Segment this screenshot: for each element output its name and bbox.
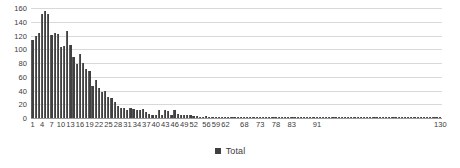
x-axis-tick-68: 68 (240, 120, 249, 129)
x-axis-tick-25: 25 (104, 120, 113, 129)
x-axis-tick-78: 78 (272, 120, 281, 129)
x-axis-tick-52: 52 (190, 120, 199, 129)
y-axis-tick-0: 0 (23, 114, 27, 123)
x-axis-tick-130: 130 (434, 120, 447, 129)
y-axis-tick-100: 100 (14, 45, 27, 54)
x-axis-tick-10: 10 (57, 120, 66, 129)
x-axis-tick-56: 56 (202, 120, 211, 129)
bar-slot[interactable] (438, 8, 441, 118)
x-axis-tick-91: 91 (313, 120, 322, 129)
x-axis-tick-31: 31 (123, 120, 132, 129)
x-axis-tick-4: 4 (40, 120, 44, 129)
legend-square-marker-icon (215, 148, 221, 154)
x-axis: 1471013161922252831343740434649525659626… (31, 120, 442, 132)
legend-label-total: Total (226, 146, 246, 156)
x-axis-tick-34: 34 (133, 120, 142, 129)
x-axis-tick-43: 43 (161, 120, 170, 129)
x-axis-tick-59: 59 (212, 120, 221, 129)
x-axis-tick-83: 83 (288, 120, 297, 129)
y-axis-tick-80: 80 (18, 59, 27, 68)
bar-chart: 160140120100806040200 147101316192225283… (0, 0, 460, 168)
x-axis-tick-7: 7 (49, 120, 53, 129)
bar-series-total (31, 8, 442, 118)
y-axis: 160140120100806040200 (0, 8, 27, 118)
x-axis-tick-13: 13 (66, 120, 75, 129)
x-axis-tick-22: 22 (95, 120, 104, 129)
x-axis-tick-62: 62 (221, 120, 230, 129)
x-axis-tick-19: 19 (85, 120, 94, 129)
x-axis-line (31, 118, 442, 119)
chart-legend: Total (0, 146, 460, 156)
y-axis-tick-60: 60 (18, 72, 27, 81)
x-axis-tick-37: 37 (142, 120, 151, 129)
x-axis-tick-40: 40 (152, 120, 161, 129)
y-axis-tick-140: 140 (14, 17, 27, 26)
x-axis-tick-49: 49 (180, 120, 189, 129)
x-axis-tick-46: 46 (171, 120, 180, 129)
x-axis-tick-1: 1 (30, 120, 34, 129)
y-axis-tick-160: 160 (14, 4, 27, 13)
y-axis-tick-20: 20 (18, 100, 27, 109)
plot-area (31, 8, 442, 118)
x-axis-tick-28: 28 (114, 120, 123, 129)
x-axis-tick-16: 16 (76, 120, 85, 129)
y-axis-tick-120: 120 (14, 31, 27, 40)
y-axis-tick-40: 40 (18, 86, 27, 95)
x-axis-tick-73: 73 (256, 120, 265, 129)
